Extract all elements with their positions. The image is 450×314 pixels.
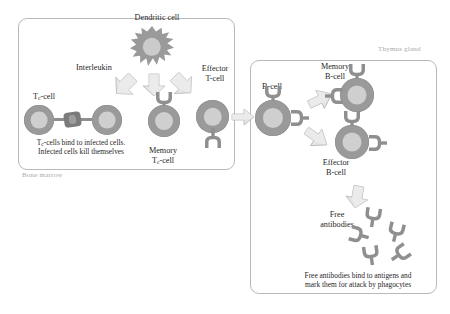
free-antibodies-note: Free antibodies bind to antigens and mar…: [278, 272, 438, 289]
block-arrow-icon-b-cell-to-effector-b: [302, 124, 332, 152]
effector-b-side-receptor-icon: [366, 133, 388, 153]
effector-t-line1: Effector: [186, 64, 244, 74]
tc-cell-label: Tc-cell: [22, 92, 66, 102]
tc-note-tail: -cells bind to infected cells.: [44, 138, 125, 147]
memory-tc-line2: Tc-cell: [132, 156, 194, 166]
y-antibody-icon-2: [348, 224, 370, 246]
bone-marrow-caption: Bone marrow: [22, 171, 63, 179]
cell-bridge-knot: [63, 111, 82, 128]
y-antibody-icon-4: [360, 244, 382, 266]
block-arrow-icon-dendritic-to-tc: [108, 70, 142, 100]
paired-cell-icon-left: [24, 105, 54, 135]
tc-cell-label-tail: -cell: [40, 92, 55, 101]
memory-b-side-receptor-icon: [324, 86, 346, 106]
paired-cell-icon-right: [92, 105, 122, 135]
memory-tc-tail: -cell: [159, 156, 174, 165]
b-cell-icon: [255, 100, 291, 136]
thymus-gland-caption: Thymus gland: [378, 45, 421, 53]
effector-b-cell-icon: [335, 125, 369, 159]
free-antibodies-line1: Free: [312, 210, 362, 220]
effector-t-line2: T-cell: [186, 74, 244, 84]
effector-b-cell-label: Effector B-cell: [305, 158, 367, 177]
dendritic-cell-label: Dendritic cell: [120, 13, 194, 23]
y-antibody-icon-5: [389, 243, 411, 265]
tc-cell-note: Tc-cells bind to infected cells. Infecte…: [16, 139, 146, 156]
tc-cell-note-line2: Infected cells kill themselves: [16, 148, 146, 157]
block-arrow-icon-effector-t-to-b-cell: [231, 107, 255, 127]
effector-t-receptor-icon: [202, 128, 224, 150]
memory-t-cell-icon: [148, 105, 180, 137]
antibody-note-line2: mark them for attack by phagocytes: [278, 281, 438, 290]
immune-response-diagram: Bone marrow Thymus gland Dendritic cell …: [0, 0, 450, 314]
effector-b-line1: Effector: [305, 158, 367, 168]
effector-b-line2: B-cell: [305, 168, 367, 178]
y-antibody-icon-3: [385, 221, 407, 243]
effector-t-cell-label: Effector T-cell: [186, 64, 244, 83]
memory-tc-cell-label: Memory Tc-cell: [132, 146, 194, 165]
dendritic-nucleus: [143, 38, 161, 56]
memory-tc-line1: Memory: [132, 146, 194, 156]
